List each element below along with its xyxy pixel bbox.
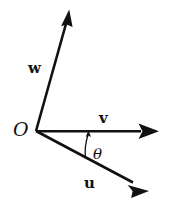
vector-v-label: v (99, 111, 108, 126)
vector-canvas (0, 0, 171, 201)
vector-w-arrowhead (61, 10, 73, 27)
vector-u-label: u (84, 176, 95, 191)
angle-arc-path (85, 135, 88, 158)
origin-label: O (13, 120, 29, 139)
vector-u-arrowhead (128, 185, 150, 198)
vector-diagram-figure: O w v u θ (0, 0, 171, 201)
vector-w-label: w (28, 61, 41, 76)
angle-theta-label: θ (93, 147, 102, 162)
vector-v (36, 124, 159, 140)
angle-arc-theta (85, 131, 91, 158)
vector-v-arrowhead (139, 124, 160, 140)
vector-w (36, 10, 73, 132)
